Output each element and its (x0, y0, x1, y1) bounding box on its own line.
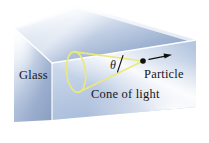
glass-label: Glass (19, 69, 48, 82)
cherenkov-cone-figure: Glass Particle Cone of light θ (0, 0, 209, 143)
particle-label: Particle (144, 68, 184, 81)
cone-of-light-label: Cone of light (91, 88, 160, 101)
theta-angle-label: θ (110, 59, 116, 71)
particle-dot (140, 58, 146, 64)
